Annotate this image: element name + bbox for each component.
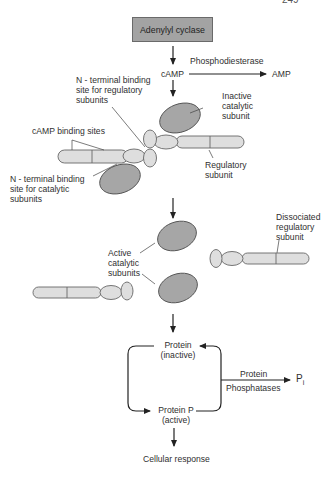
arrow-dephosphorylation (196, 346, 221, 411)
camp-label: cAMP (161, 69, 184, 79)
active-catalytic-upper (153, 216, 200, 256)
n-terminal-catalytic-label: N - terminal binding site for catalytic … (10, 174, 85, 204)
active-catalytic-label: Active catalytic subunits (108, 248, 140, 278)
dissociated-regulatory-left (33, 282, 133, 300)
inactive-catalytic-label: Inactive catalytic subunit (222, 91, 253, 121)
protein-p-active-label: Protein P (active) (156, 405, 196, 425)
inactive-catalytic-lower (95, 159, 144, 200)
dissociated-regulatory-label: Dissociated regulatory subunit (276, 212, 320, 242)
camp-binding-sites-label: cAMP binding sites (32, 126, 105, 136)
dissociated-regulatory-right (210, 250, 309, 268)
holoenzyme-upper-regulatory (144, 130, 245, 149)
phosphodiesterase-label: Phosphodiesterase (190, 56, 264, 66)
phosphatase-bottom-label: Phosphatases (226, 383, 280, 393)
cellular-response-label: Cellular response (143, 454, 210, 464)
phosphatase-top-label: Protein (240, 369, 267, 379)
pi-label: Pi (296, 374, 304, 388)
n-terminal-regulatory-label: N - terminal binding site for regulatory… (76, 75, 151, 105)
amp-label: AMP (272, 69, 291, 79)
inactive-catalytic-upper (155, 98, 204, 139)
regulatory-subunit-label: Regulatory subunit (205, 160, 247, 180)
holoenzyme-lower-regulatory (58, 149, 157, 167)
arrow-phosphorylation (128, 346, 154, 411)
active-catalytic-lower (154, 268, 201, 308)
protein-inactive-label: Protein (inactive) (159, 340, 197, 360)
